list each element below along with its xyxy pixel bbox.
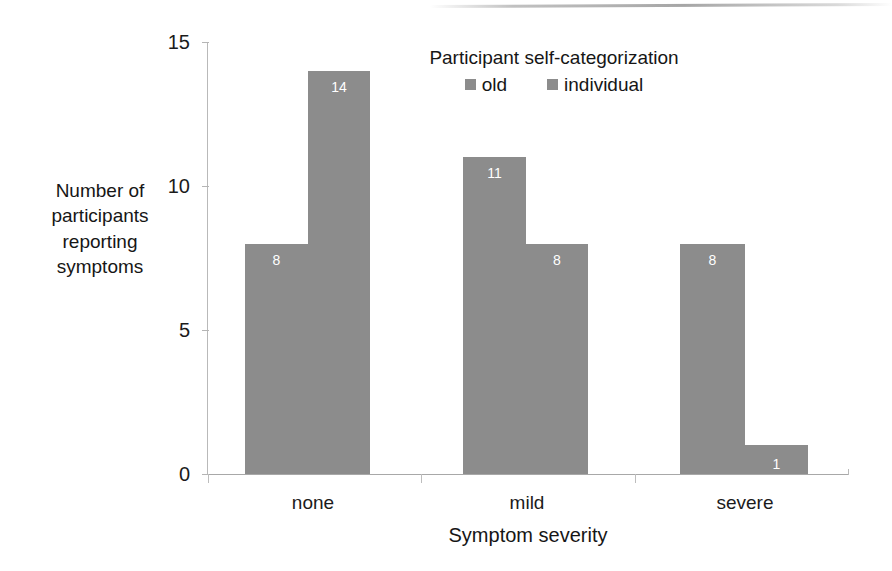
y-axis-title-line-3: reporting <box>34 229 166 254</box>
x-axis-end-cap <box>848 469 849 475</box>
y-tick-label-5: 5 <box>179 319 190 342</box>
bar-severe-individual[interactable]: 1 <box>745 445 808 474</box>
y-tick-10: 10 <box>202 186 209 187</box>
legend-swatch-icon-individual <box>547 79 558 90</box>
y-tick-label-0: 0 <box>179 463 190 486</box>
legend-items: old individual <box>404 74 704 96</box>
legend-label-old: old <box>482 74 507 96</box>
bar-value-mild-individual: 8 <box>526 253 588 267</box>
legend-swatch-icon-old <box>465 79 476 90</box>
x-category-label-severe: severe <box>716 492 773 514</box>
x-category-label-mild: mild <box>510 492 545 514</box>
bar-none-old[interactable]: 8 <box>245 244 308 474</box>
bar-value-mild-old: 11 <box>463 166 526 180</box>
legend-item-old[interactable]: old <box>465 74 507 96</box>
y-axis-title-line-2: participants <box>34 203 166 228</box>
legend: Participant self-categorization old indi… <box>404 48 704 96</box>
legend-title: Participant self-categorization <box>404 48 704 69</box>
legend-label-individual: individual <box>564 74 643 96</box>
bar-chart-figure: Number of participants reporting symptom… <box>0 0 892 571</box>
y-tick-5: 5 <box>202 330 209 331</box>
x-axis-line <box>208 474 849 475</box>
x-axis-title: Symptom severity <box>208 524 848 547</box>
y-axis-title-line-4: symptoms <box>34 254 166 279</box>
legend-item-individual[interactable]: individual <box>547 74 643 96</box>
bar-value-severe-individual: 1 <box>745 457 808 471</box>
y-axis-title: Number of participants reporting symptom… <box>34 178 166 280</box>
bar-value-none-individual: 14 <box>308 80 370 94</box>
y-tick-15: 15 <box>202 42 209 43</box>
bar-none-individual[interactable]: 14 <box>308 71 370 474</box>
y-tick-label-10: 10 <box>168 175 190 198</box>
bar-value-none-old: 8 <box>245 253 308 267</box>
x-tick-start <box>208 474 209 483</box>
x-category-label-none: none <box>292 492 334 514</box>
bar-mild-old[interactable]: 11 <box>463 157 526 474</box>
x-tick-mild-severe <box>635 474 636 483</box>
bar-mild-individual[interactable]: 8 <box>526 244 588 474</box>
y-axis-title-line-1: Number of <box>34 178 166 203</box>
x-tick-none-mild <box>421 474 422 483</box>
scan-artifact-streak <box>430 3 892 8</box>
y-tick-label-15: 15 <box>168 31 190 54</box>
plot-area: 15 10 5 0 8 14 11 8 8 1 <box>208 42 848 474</box>
bar-severe-old[interactable]: 8 <box>680 244 745 474</box>
bar-value-severe-old: 8 <box>680 253 745 267</box>
